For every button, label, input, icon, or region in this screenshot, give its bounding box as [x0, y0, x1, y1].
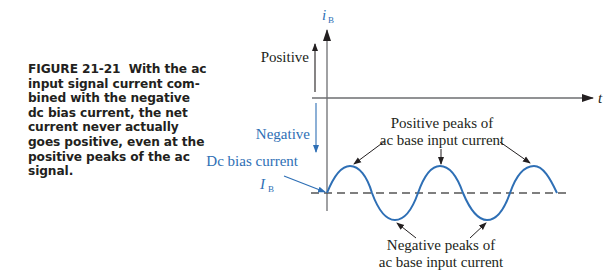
positive-label: Positive	[261, 49, 310, 65]
bias-subscript: B	[268, 184, 274, 194]
x-axis-label: t	[598, 90, 603, 106]
bias-symbol: I	[259, 176, 266, 192]
negative-peak-pointer-2	[470, 223, 486, 238]
current-waveform-diagram: i B t Positive Negative Dc bias current …	[0, 0, 608, 271]
y-axis-label: i	[322, 7, 326, 23]
positive-peak-pointer-3	[500, 142, 530, 163]
negative-label: Negative	[256, 126, 310, 142]
negative-peak-pointer-1	[397, 223, 416, 238]
positive-peaks-label-line2: ac base input current	[380, 132, 505, 148]
y-axis-subscript: B	[328, 15, 334, 25]
negative-peaks-label-line1: Negative peaks of	[387, 237, 495, 253]
bias-pointer-arrow	[284, 176, 325, 192]
positive-peaks-label-line1: Positive peaks of	[391, 115, 494, 131]
positive-peak-pointer-1	[354, 141, 385, 164]
dc-bias-label: Dc bias current	[206, 153, 298, 169]
negative-peaks-label-line2: ac base input current	[379, 254, 504, 270]
